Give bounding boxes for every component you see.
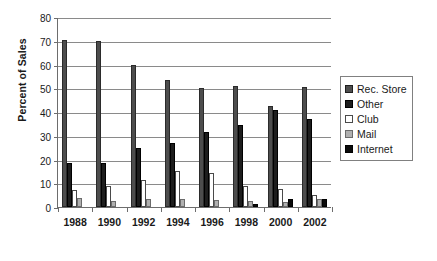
y-tick-label: 70 (40, 36, 51, 47)
legend-item-club[interactable]: Club (345, 111, 407, 126)
chart-legend: Rec. StoreOtherClubMailInternet (340, 76, 413, 161)
y-tick-mark (54, 66, 58, 67)
legend-swatch-icon (345, 115, 353, 123)
bar-group (96, 18, 121, 207)
legend-item-mail[interactable]: Mail (345, 126, 407, 141)
plot-area: 01020304050607080 1988199019921994199619… (57, 18, 331, 208)
bar-internet-2002 (322, 199, 327, 207)
legend-label: Club (357, 113, 379, 125)
x-tick-label-1992: 1992 (132, 216, 155, 228)
x-tick-label-2000: 2000 (269, 216, 292, 228)
x-tick-label-1988: 1988 (63, 216, 86, 228)
legend-label: Rec. Store (357, 83, 407, 95)
y-tick-mark (54, 89, 58, 90)
x-tick-label-1996: 1996 (200, 216, 223, 228)
y-tick-mark (54, 137, 58, 138)
bar-mail-1990 (111, 201, 116, 207)
legend-item-rec-store[interactable]: Rec. Store (345, 81, 407, 96)
y-tick-label: 0 (45, 203, 51, 214)
y-axis-title: Percent of Sales (16, 10, 28, 150)
bar-group (233, 18, 258, 207)
x-tick-mark (298, 207, 299, 212)
bar-internet-1998 (253, 204, 258, 207)
legend-label: Mail (357, 128, 376, 140)
x-tick-mark (92, 207, 93, 212)
x-tick-label-1994: 1994 (166, 216, 189, 228)
x-tick-label-2002: 2002 (303, 216, 326, 228)
legend-swatch-icon (345, 145, 353, 153)
y-tick-label: 40 (40, 108, 51, 119)
bar-group (62, 18, 87, 207)
legend-label: Internet (357, 143, 393, 155)
legend-label: Other (357, 98, 383, 110)
x-tick-mark (195, 207, 196, 212)
bar-mail-1988 (77, 198, 82, 207)
y-tick-label: 50 (40, 84, 51, 95)
bar-group (302, 18, 327, 207)
y-tick-mark (54, 42, 58, 43)
bar-mail-1994 (180, 199, 185, 207)
x-tick-mark (229, 207, 230, 212)
bar-group (199, 18, 224, 207)
bar-mail-1992 (146, 199, 151, 207)
y-tick-label: 10 (40, 179, 51, 190)
y-tick-label: 20 (40, 155, 51, 166)
y-tick-mark (54, 113, 58, 114)
legend-item-internet[interactable]: Internet (345, 141, 407, 156)
bar-group (268, 18, 293, 207)
legend-swatch-icon (345, 130, 353, 138)
x-tick-mark (264, 207, 265, 212)
bar-group (131, 18, 156, 207)
y-tick-mark (54, 18, 58, 19)
y-tick-mark (54, 161, 58, 162)
x-tick-label-1998: 1998 (235, 216, 258, 228)
legend-swatch-icon (345, 100, 353, 108)
y-tick-label: 30 (40, 131, 51, 142)
bar-other-2002 (307, 119, 312, 207)
bar-chart: Percent of Sales 01020304050607080 19881… (0, 0, 437, 261)
y-tick-label: 80 (40, 13, 51, 24)
x-tick-mark (58, 207, 59, 212)
x-tick-mark (332, 207, 333, 212)
bar-group (165, 18, 190, 207)
y-tick-label: 60 (40, 60, 51, 71)
x-tick-mark (161, 207, 162, 212)
bar-internet-2000 (288, 199, 293, 207)
y-tick-mark (54, 184, 58, 185)
legend-swatch-icon (345, 85, 353, 93)
bar-mail-1996 (214, 200, 219, 207)
x-tick-mark (127, 207, 128, 212)
legend-item-other[interactable]: Other (345, 96, 407, 111)
x-tick-label-1990: 1990 (98, 216, 121, 228)
